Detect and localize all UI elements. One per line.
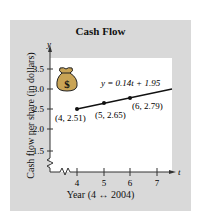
chart-svg: y t 3.5 3.0 2.5 2.0 1.5 4 5 6 7: [0, 0, 201, 213]
y-axis-var: y: [46, 39, 51, 49]
y-tick-labels: 3.5 3.0 2.5 2.0 1.5: [33, 64, 45, 156]
data-point: [102, 101, 106, 105]
equation-label: y = 0.14t + 1.95: [100, 78, 161, 88]
point-label: (5, 2.65): [95, 110, 126, 120]
money-bag-icon: $: [57, 68, 77, 91]
x-tick-label: 5: [102, 178, 107, 188]
x-tick-label: 7: [155, 178, 160, 188]
x-tick-labels: 4 5 6 7: [75, 178, 160, 188]
data-points: [75, 96, 132, 111]
y-tick-label: 3.5: [33, 64, 45, 74]
y-tick-label: 2.5: [33, 104, 45, 114]
y-tick-label: 1.5: [33, 146, 45, 156]
x-tick-label: 4: [75, 178, 80, 188]
x-axis-var: t: [178, 167, 181, 177]
x-tick-label: 6: [128, 178, 133, 188]
point-label: (6, 2.79): [132, 101, 163, 111]
svg-text:$: $: [64, 78, 70, 90]
data-point: [75, 107, 79, 111]
data-point: [128, 96, 132, 100]
point-label: (4, 2.51): [55, 113, 86, 123]
point-labels: (4, 2.51) (5, 2.65) (6, 2.79): [55, 101, 163, 123]
y-tick-label: 3.0: [33, 84, 45, 94]
y-tick-label: 2.0: [33, 124, 45, 134]
